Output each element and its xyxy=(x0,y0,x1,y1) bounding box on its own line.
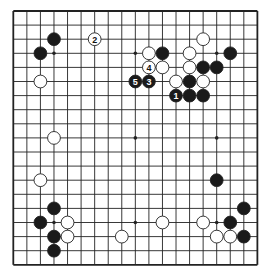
stone-disc xyxy=(210,174,223,187)
hoshi-point xyxy=(134,221,138,225)
stone-disc xyxy=(183,75,196,88)
hoshi-point xyxy=(52,221,56,225)
white-stone xyxy=(34,75,47,88)
black-stone xyxy=(210,174,223,187)
stone-disc xyxy=(48,132,61,145)
black-stone-move-5: 5 xyxy=(129,75,142,88)
stone-disc xyxy=(48,230,61,243)
stone-disc xyxy=(156,47,169,60)
stone-disc xyxy=(237,202,250,215)
go-board: 24531 xyxy=(0,0,268,276)
white-stone xyxy=(197,75,210,88)
black-stone xyxy=(210,61,223,74)
white-stone xyxy=(156,216,169,229)
stone-disc xyxy=(224,47,237,60)
stone-disc xyxy=(156,61,169,74)
white-stone xyxy=(48,132,61,145)
stone-disc xyxy=(210,230,223,243)
hoshi-point xyxy=(215,221,219,225)
stone-disc xyxy=(183,61,196,74)
white-stone xyxy=(197,33,210,46)
stone-disc xyxy=(197,75,210,88)
move-number-label: 5 xyxy=(133,77,138,87)
stone-disc xyxy=(183,89,196,102)
stone-disc xyxy=(197,61,210,74)
move-number-label: 2 xyxy=(92,35,97,45)
stone-disc xyxy=(34,75,47,88)
white-stone xyxy=(170,75,183,88)
black-stone xyxy=(197,89,210,102)
white-stone xyxy=(61,216,74,229)
white-stone xyxy=(197,216,210,229)
white-stone xyxy=(183,61,196,74)
black-stone-move-3: 3 xyxy=(143,75,156,88)
black-stone xyxy=(156,47,169,60)
stone-disc xyxy=(183,47,196,60)
black-stone xyxy=(224,216,237,229)
stone-disc xyxy=(224,230,237,243)
black-stone xyxy=(183,75,196,88)
stone-disc xyxy=(224,216,237,229)
white-stone xyxy=(34,174,47,187)
stone-disc xyxy=(48,33,61,46)
white-stone xyxy=(61,230,74,243)
move-number-label: 3 xyxy=(146,77,151,87)
stone-disc xyxy=(48,202,61,215)
black-stone-move-1: 1 xyxy=(170,89,183,102)
white-stone xyxy=(143,47,156,60)
move-number-label: 1 xyxy=(174,91,179,101)
stone-disc xyxy=(48,244,61,257)
stone-disc xyxy=(156,216,169,229)
black-stone xyxy=(197,61,210,74)
black-stone xyxy=(183,89,196,102)
stone-disc xyxy=(61,216,74,229)
white-stone xyxy=(115,230,128,243)
stone-disc xyxy=(115,230,128,243)
move-number-label: 4 xyxy=(146,63,151,73)
stone-disc xyxy=(197,33,210,46)
stone-disc xyxy=(34,174,47,187)
stone-disc xyxy=(143,47,156,60)
stone-disc xyxy=(197,216,210,229)
stone-disc xyxy=(34,47,47,60)
stone-disc xyxy=(170,75,183,88)
white-stone xyxy=(224,230,237,243)
white-stone xyxy=(210,230,223,243)
stone-disc xyxy=(210,61,223,74)
white-stone-move-2: 2 xyxy=(88,33,101,46)
white-stone xyxy=(156,61,169,74)
hoshi-point xyxy=(52,52,56,56)
black-stone xyxy=(48,202,61,215)
hoshi-point xyxy=(215,136,219,140)
black-stone xyxy=(48,230,61,243)
stone-disc xyxy=(237,230,250,243)
hoshi-point xyxy=(215,52,219,56)
white-stone-move-4: 4 xyxy=(143,61,156,74)
black-stone xyxy=(48,244,61,257)
stone-disc xyxy=(61,230,74,243)
black-stone xyxy=(237,230,250,243)
black-stone xyxy=(34,216,47,229)
hoshi-point xyxy=(134,136,138,140)
hoshi-point xyxy=(134,52,138,56)
black-stone xyxy=(237,202,250,215)
black-stone xyxy=(48,33,61,46)
black-stone xyxy=(34,47,47,60)
white-stone xyxy=(183,47,196,60)
stone-disc xyxy=(34,216,47,229)
stone-disc xyxy=(197,89,210,102)
black-stone xyxy=(224,47,237,60)
